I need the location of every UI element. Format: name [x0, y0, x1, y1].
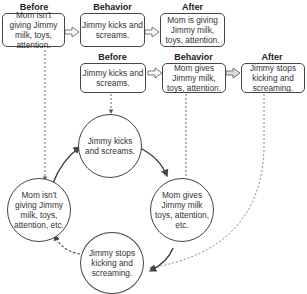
cycle-arrow-top-to-right	[140, 148, 167, 176]
header-behavior-2: Behavior	[161, 52, 226, 62]
box-before-1-text: Mom isn't giving Jimmy milk, toys, atten…	[4, 10, 63, 50]
circle-right-text: Mom gives Jimmy milk toys, attention, et…	[153, 190, 211, 230]
box-before-2-text: Jimmy kicks and screams.	[82, 68, 144, 88]
circle-left: Mom isn't giving Jimmy milk, toys, atten…	[7, 178, 71, 242]
box-before-2: Jimmy kicks and screams.	[80, 63, 146, 93]
circle-top-text: Jimmy kicks and screams.	[83, 136, 137, 156]
circle-bottom: Jimmy stops kicking and screaming.	[80, 232, 144, 294]
header-after-2: After	[240, 52, 304, 62]
header-after-1: After	[160, 2, 225, 12]
box-behavior-2: Mom gives Jimmy milk, toys, attention.	[162, 63, 226, 93]
box-before-1: Mom isn't giving Jimmy milk, toys, atten…	[2, 13, 65, 47]
block-arrow-2	[145, 27, 159, 37]
circle-left-text: Mom isn't giving Jimmy milk, toys, atten…	[10, 190, 68, 230]
dashed-connector-bottom-to-left-circle	[55, 235, 80, 254]
header-behavior-1: Behavior	[80, 2, 145, 12]
box-after-1: Mom is giving Jimmy milk, toys, attentio…	[160, 13, 225, 47]
box-behavior-2-text: Mom gives Jimmy milk, toys, attention.	[164, 63, 224, 93]
circle-top: Jimmy kicks and screams.	[78, 114, 142, 178]
block-arrow-3	[148, 68, 162, 78]
circle-bottom-text: Jimmy stops kicking and screaming.	[85, 248, 139, 278]
box-behavior-1: Jimmy kicks and screams.	[80, 13, 145, 47]
box-after-2-text: Jimmy stops kicking and screaming.	[243, 63, 303, 93]
block-arrow-4	[226, 68, 240, 78]
cycle-arrow-left-to-top	[53, 147, 80, 183]
box-after-2: Jimmy stops kicking and screaming.	[241, 63, 305, 93]
box-after-1-text: Mom is giving Jimmy milk, toys, attentio…	[162, 15, 223, 45]
circle-right: Mom gives Jimmy milk toys, attention, et…	[150, 178, 214, 242]
block-arrow-1	[65, 27, 79, 37]
header-before-2: Before	[80, 52, 145, 62]
box-behavior-1-text: Jimmy kicks and screams.	[82, 20, 143, 40]
